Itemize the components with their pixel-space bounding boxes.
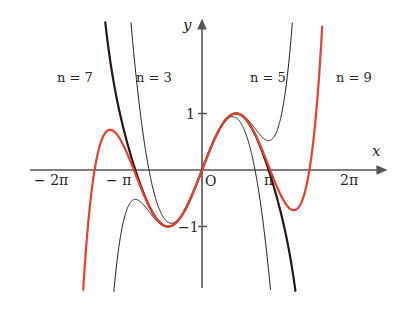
- curve-n3: [131, 23, 270, 289]
- x-axis-label: x: [372, 142, 380, 160]
- y-axis-label: y: [183, 16, 191, 34]
- series-label-n9: n = 9: [336, 70, 372, 85]
- series-label-n7: n = 7: [57, 70, 93, 85]
- series-label-n5: n = 5: [250, 70, 286, 85]
- x-tick-2pi: 2π: [340, 172, 358, 188]
- origin-label: O: [205, 173, 216, 189]
- y-tick-one: 1: [186, 106, 195, 122]
- x-tick-minus-pi: − π: [106, 172, 131, 188]
- taylor-sine-figure: y x O − 2π − π π 2π 1 −1 n = 7 n = 3 n =…: [0, 0, 402, 314]
- x-tick-pi: π: [264, 172, 273, 188]
- x-tick-minus-2pi: − 2π: [34, 172, 68, 188]
- plot-canvas: [0, 0, 402, 314]
- series-label-n3: n = 3: [136, 70, 172, 85]
- y-tick-minus-one: −1: [178, 219, 199, 235]
